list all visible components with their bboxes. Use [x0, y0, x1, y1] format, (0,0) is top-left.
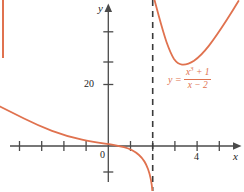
x-tick-label-0: 0 — [100, 150, 105, 160]
figure-container: y x 20 0 4 y = x3 + 1 x − 2 — [0, 0, 244, 191]
equation-equals-sign: = — [174, 74, 182, 85]
curve-left-branch — [0, 107, 152, 192]
y-axis-label: y — [98, 3, 103, 14]
y-tick-label-20: 20 — [84, 79, 94, 89]
equation-denominator: x − 2 — [186, 81, 210, 91]
plot-canvas — [0, 0, 244, 191]
equation-annotation: y = x3 + 1 x − 2 — [168, 68, 211, 91]
x-axis — [10, 141, 242, 151]
numerator-rest: + 1 — [194, 67, 210, 77]
equation-lhs: y — [168, 74, 172, 85]
curve-right-branch — [155, 0, 239, 65]
equation-fraction: x3 + 1 x − 2 — [184, 68, 211, 91]
equation-numerator: x3 + 1 — [184, 68, 211, 78]
x-axis-label: x — [233, 151, 238, 162]
x-tick-label-4: 4 — [194, 152, 199, 162]
